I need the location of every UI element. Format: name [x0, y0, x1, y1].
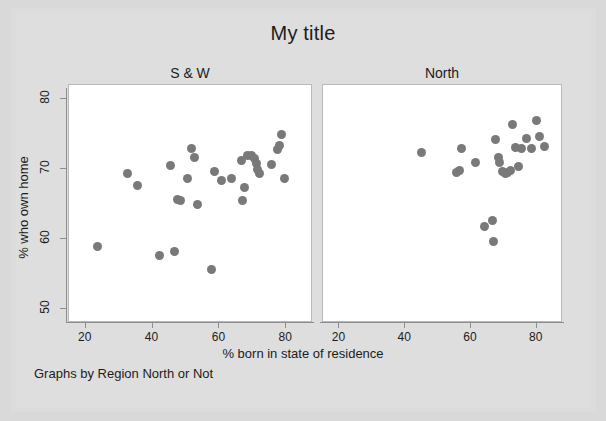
panel-s-and-w: S & W — [68, 62, 312, 322]
page-title: My title — [0, 22, 606, 45]
y-tick-label: 50 — [38, 296, 52, 318]
data-point — [495, 158, 504, 167]
data-point — [471, 158, 480, 167]
y-tick — [60, 308, 66, 309]
x-tick — [218, 322, 219, 328]
data-point — [280, 174, 289, 183]
x-tick-label: 80 — [521, 330, 551, 344]
x-axis-line-right — [320, 322, 564, 323]
x-tick-label: 80 — [270, 330, 300, 344]
plot-area-right — [322, 84, 562, 322]
data-point — [240, 183, 249, 192]
y-tick-label: 80 — [38, 86, 52, 108]
data-point — [133, 181, 142, 190]
data-point — [183, 174, 192, 183]
panel-title-left: S & W — [68, 62, 312, 84]
data-point — [93, 242, 102, 251]
footnote: Graphs by Region North or Not — [34, 366, 213, 381]
data-point — [491, 135, 500, 144]
y-tick — [60, 168, 66, 169]
chart-screenshot: My title % who own home % born in state … — [0, 0, 606, 421]
panel-title-right: North — [322, 62, 562, 84]
y-axis-line — [66, 88, 67, 322]
data-point — [210, 167, 219, 176]
data-point — [480, 222, 489, 231]
data-point — [517, 144, 526, 153]
data-point — [489, 237, 498, 246]
data-point — [540, 142, 549, 151]
data-point — [417, 148, 426, 157]
data-point — [532, 116, 541, 125]
panel-north: North — [322, 62, 562, 322]
data-point — [457, 144, 466, 153]
data-point — [217, 176, 226, 185]
data-point — [527, 144, 536, 153]
x-tick — [404, 322, 405, 328]
y-tick-label: 60 — [38, 226, 52, 248]
x-tick — [338, 322, 339, 328]
data-point — [255, 169, 264, 178]
data-point — [227, 174, 236, 183]
data-point — [238, 196, 247, 205]
data-point — [514, 162, 523, 171]
x-tick-label: 20 — [323, 330, 353, 344]
y-axis-label: % who own home — [16, 138, 31, 278]
data-point — [522, 134, 531, 143]
x-axis-label: % born in state of residence — [0, 346, 606, 361]
data-point — [207, 265, 216, 274]
data-point — [187, 144, 196, 153]
data-point — [176, 196, 185, 205]
data-point — [166, 161, 175, 170]
data-point — [123, 169, 132, 178]
x-tick — [152, 322, 153, 328]
data-point — [170, 247, 179, 256]
y-tick — [60, 98, 66, 99]
data-point — [508, 120, 517, 129]
x-tick — [285, 322, 286, 328]
data-point — [277, 130, 286, 139]
x-tick-label: 40 — [389, 330, 419, 344]
data-point — [190, 153, 199, 162]
data-point — [267, 160, 276, 169]
data-point — [155, 251, 164, 260]
x-tick — [536, 322, 537, 328]
y-tick — [60, 238, 66, 239]
data-point — [275, 141, 284, 150]
x-tick — [85, 322, 86, 328]
x-tick-label: 40 — [137, 330, 167, 344]
data-point — [488, 216, 497, 225]
data-point — [193, 200, 202, 209]
x-tick — [470, 322, 471, 328]
y-tick-label: 70 — [38, 156, 52, 178]
x-axis-line-left — [66, 322, 314, 323]
plot-area-left — [68, 84, 312, 322]
x-tick-label: 60 — [203, 330, 233, 344]
x-tick-label: 60 — [455, 330, 485, 344]
data-point — [455, 166, 464, 175]
data-point — [535, 132, 544, 141]
x-tick-label: 20 — [70, 330, 100, 344]
